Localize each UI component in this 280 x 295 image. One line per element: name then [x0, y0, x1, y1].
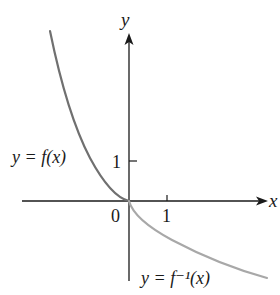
x-axis-label: x: [268, 190, 278, 211]
origin-label: 0: [111, 206, 120, 226]
curve-f-label: y = f(x): [10, 147, 66, 168]
y-axis: [125, 33, 134, 281]
curve-f: [50, 31, 129, 201]
function-inverse-graph: y x 0 1 1 y = f(x) y = f⁻¹(x): [0, 0, 280, 295]
curve-f-inverse-label: y = f⁻¹(x): [139, 268, 210, 289]
y-tick-label: 1: [112, 152, 121, 172]
curve-f-inverse: [129, 201, 267, 278]
x-axis: [22, 197, 268, 206]
y-axis-label: y: [119, 9, 130, 30]
x-tick-label: 1: [162, 206, 171, 226]
